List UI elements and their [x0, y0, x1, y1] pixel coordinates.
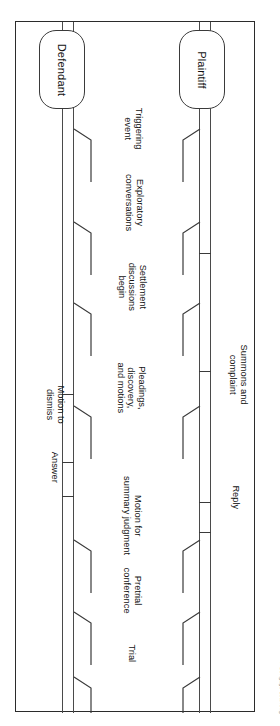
role-box-plaintiff[interactable]: Plaintiff	[179, 30, 225, 109]
connector-triggering-right	[74, 129, 91, 182]
event-label-settlement-discussions: Settlement discussions begin	[116, 237, 148, 337]
figure-frame: Defendant Plaintiff Triggering event Exp…	[15, 21, 255, 712]
copyright-credit: © Cengage Learning	[279, 661, 280, 714]
plaintiff-milestone-summons-and-complaint: Summons and complaint	[227, 328, 248, 422]
event-label-pleadings-discovery: Pleadings, discovery, and motions	[115, 338, 147, 438]
defendant-milestone-answer: Answer	[50, 436, 61, 498]
connector-triggering-left	[183, 129, 200, 182]
defendant-milestone-motion-to-dismiss: Motion to dismiss	[44, 370, 65, 440]
role-box-defendant[interactable]: Defendant	[39, 30, 85, 109]
event-label-trial: Trial	[127, 619, 138, 687]
role-label-plaintiff: Plaintiff	[196, 51, 208, 89]
role-label-defendant: Defendant	[56, 43, 68, 96]
plaintiff-milestone-reply: Reply	[231, 463, 242, 531]
